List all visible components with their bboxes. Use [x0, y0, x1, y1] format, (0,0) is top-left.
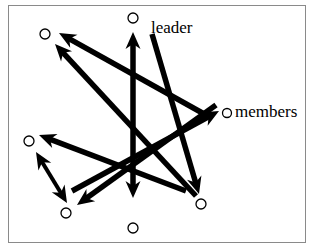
diagram-root: leader members	[0, 0, 319, 251]
edges-layer	[36, 32, 219, 205]
node-circle	[61, 208, 71, 218]
arrow-edge	[36, 152, 67, 203]
node-circle	[24, 136, 34, 146]
node-circle	[223, 109, 232, 118]
members-label: members	[235, 102, 297, 122]
node-circle	[128, 13, 138, 23]
node-circle	[196, 199, 206, 209]
leader-label: leader	[151, 18, 193, 38]
node-circle	[40, 29, 50, 39]
node-circle	[128, 223, 138, 233]
arrow-shaft	[39, 159, 64, 196]
